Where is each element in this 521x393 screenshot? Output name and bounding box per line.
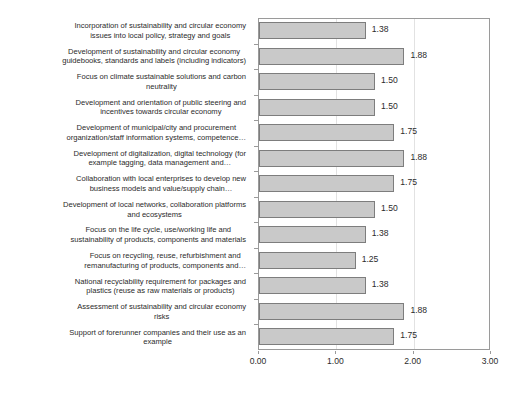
bar-value-label: 1.88 (410, 152, 427, 163)
bar[interactable] (259, 124, 394, 141)
bar-value-label: 1.38 (372, 228, 389, 239)
x-axis-tick (490, 351, 491, 354)
x-axis-tick-label: 2.00 (404, 356, 421, 367)
category-label: Development of sustainability and circul… (62, 47, 246, 66)
bar-value-label: 1.75 (400, 177, 417, 188)
category-label: Assessment of sustainability and circula… (77, 302, 246, 321)
bar[interactable] (259, 99, 375, 116)
category-label: Development and orientation of public st… (76, 98, 246, 117)
bar[interactable] (259, 48, 404, 65)
bar-row: 1.38 (259, 223, 491, 249)
category-label: Focus on the life cycle, use/working lif… (71, 225, 246, 244)
x-axis-tick-label: 1.00 (327, 356, 344, 367)
bar[interactable] (259, 201, 375, 218)
bar[interactable] (259, 73, 375, 90)
category-label-cell: Incorporation of sustainability and circ… (12, 18, 252, 44)
category-label-cell: Development of municipal/city and procur… (12, 120, 252, 146)
category-label-cell: National recyclability requirement for p… (12, 273, 252, 299)
bar-row: 1.88 (259, 300, 491, 326)
bar-chart: Incorporation of sustainability and circ… (0, 0, 521, 393)
category-label-cell: Focus on climate sustainable solutions a… (12, 69, 252, 95)
category-label: Incorporation of sustainability and circ… (74, 21, 246, 40)
bar[interactable] (259, 303, 404, 320)
category-axis: Incorporation of sustainability and circ… (12, 18, 252, 350)
bar-row: 1.50 (259, 96, 491, 122)
bar[interactable] (259, 226, 366, 243)
category-label: Focus on recycling, reuse, refurbishment… (84, 251, 246, 270)
bar-value-label: 1.88 (410, 50, 427, 61)
category-label: National recyclability requirement for p… (75, 277, 246, 296)
x-axis-tick-label: 3.00 (482, 356, 499, 367)
bar[interactable] (259, 22, 366, 39)
bar[interactable] (259, 277, 366, 294)
bar-value-label: 1.50 (381, 101, 398, 112)
bar[interactable] (259, 150, 404, 167)
bar-row: 1.25 (259, 249, 491, 275)
bar-value-label: 1.38 (372, 24, 389, 35)
bar-row: 1.38 (259, 19, 491, 45)
bar-row: 1.50 (259, 70, 491, 96)
bar-value-label: 1.75 (400, 330, 417, 341)
category-label: Development of local networks, collabora… (63, 200, 246, 219)
category-label-cell: Development and orientation of public st… (12, 95, 252, 121)
bar-row: 1.88 (259, 45, 491, 71)
bar[interactable] (259, 328, 394, 345)
bar-row: 1.75 (259, 172, 491, 198)
category-label-cell: Development of digitalization, digital t… (12, 146, 252, 172)
category-label-cell: Development of sustainability and circul… (12, 44, 252, 70)
category-label: Development of municipal/city and procur… (67, 123, 247, 142)
x-axis-tick (413, 351, 414, 354)
category-label: Focus on climate sustainable solutions a… (77, 72, 246, 91)
x-axis-tick (258, 351, 259, 354)
bar[interactable] (259, 252, 356, 269)
category-label: Collaboration with local enterprises to … (76, 174, 246, 193)
bar-row: 1.50 (259, 198, 491, 224)
bar-value-label: 1.50 (381, 75, 398, 86)
bar-row: 1.75 (259, 325, 491, 351)
x-axis-tick (335, 351, 336, 354)
plot-area: 1.381.881.501.501.751.881.751.501.381.25… (258, 18, 490, 350)
category-label: Development of digitalization, digital t… (74, 149, 246, 168)
bar-value-label: 1.75 (400, 126, 417, 137)
bar-value-label: 1.50 (381, 203, 398, 214)
bar-value-label: 1.88 (410, 305, 427, 316)
x-axis: 0.001.002.003.00 (258, 351, 490, 371)
bar-row: 1.88 (259, 147, 491, 173)
category-label: Support of forerunner companies and thei… (69, 328, 246, 347)
bar-row: 1.38 (259, 274, 491, 300)
category-label-cell: Focus on the life cycle, use/working lif… (12, 222, 252, 248)
category-label-cell: Focus on recycling, reuse, refurbishment… (12, 248, 252, 274)
category-label-cell: Assessment of sustainability and circula… (12, 299, 252, 325)
category-label-cell: Development of local networks, collabora… (12, 197, 252, 223)
x-axis-tick-label: 0.00 (250, 356, 267, 367)
bar-value-label: 1.25 (362, 254, 379, 265)
category-label-cell: Support of forerunner companies and thei… (12, 324, 252, 350)
bar-row: 1.75 (259, 121, 491, 147)
bar[interactable] (259, 175, 394, 192)
bar-value-label: 1.38 (372, 279, 389, 290)
category-label-cell: Collaboration with local enterprises to … (12, 171, 252, 197)
